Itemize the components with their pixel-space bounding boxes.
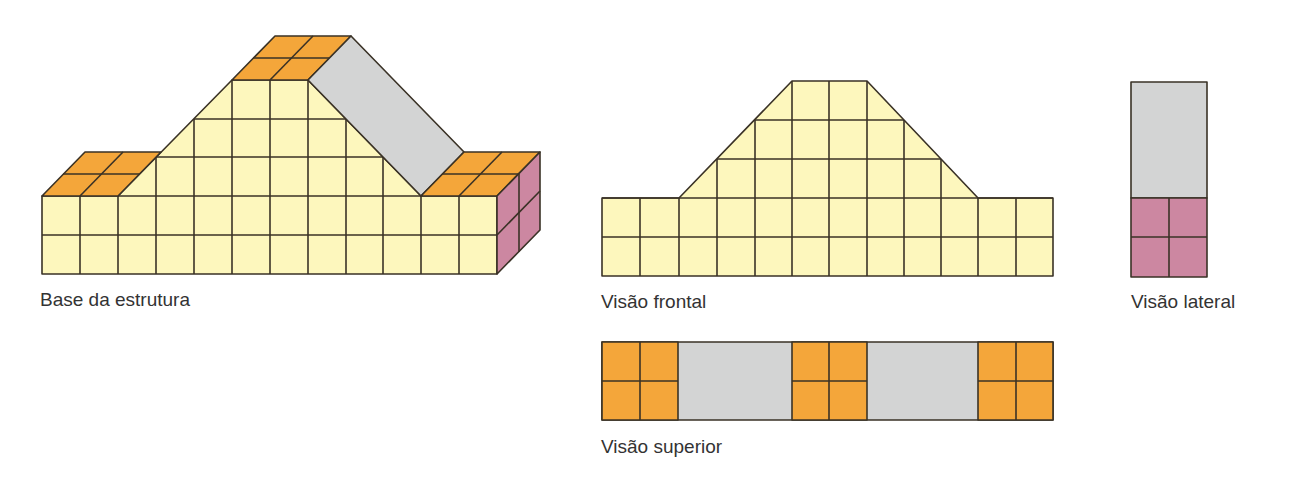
front-view xyxy=(602,81,1053,276)
lateral-view xyxy=(1131,82,1207,277)
base-structure-3d xyxy=(42,36,540,274)
base-structure-label: Base da estrutura xyxy=(40,289,190,311)
top-view xyxy=(602,342,1053,420)
front-view-label: Visão frontal xyxy=(601,291,706,313)
diagram-canvas xyxy=(0,0,1304,489)
lateral-view-label: Visão lateral xyxy=(1131,291,1235,313)
top-view-label: Visão superior xyxy=(601,436,722,458)
